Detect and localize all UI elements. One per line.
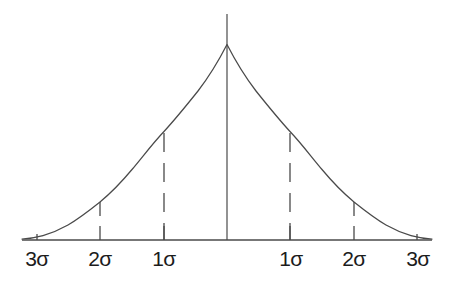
normal-distribution-plot [0,0,453,293]
bell-curve-figure: 3σ 2σ 1σ 1σ 2σ 3σ [0,0,453,293]
axis-label-plus-1-sigma: 1σ [279,248,303,269]
axis-label-minus-2-sigma: 2σ [88,248,112,269]
axis-label-plus-3-sigma: 3σ [406,248,430,269]
axis-label-plus-2-sigma: 2σ [342,248,366,269]
axis-label-minus-3-sigma: 3σ [25,248,49,269]
axis-label-minus-1-sigma: 1σ [152,248,176,269]
